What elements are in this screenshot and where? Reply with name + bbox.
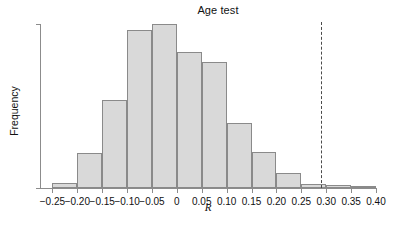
x-tick-mark (376, 188, 377, 193)
histogram-bar (301, 184, 326, 188)
x-tick-mark (227, 188, 228, 193)
histogram-bar (177, 52, 202, 188)
y-tick-mark (36, 24, 41, 25)
histogram-bar (152, 24, 177, 188)
x-tick-mark (252, 188, 253, 193)
x-tick-mark (177, 188, 178, 193)
x-tick-mark (202, 188, 203, 193)
chart-title: Age test (12, 4, 412, 16)
y-axis-label: Frequency (8, 66, 20, 156)
plot-area: −0.25−0.20−0.15−0.10−0.0500.050.100.150.… (40, 24, 376, 188)
histogram-bar (326, 185, 351, 188)
x-tick-mark (77, 188, 78, 193)
histogram-bar (252, 152, 277, 188)
histogram-bar (77, 153, 102, 188)
histogram-bar (127, 30, 152, 188)
histogram-figure: Age test Frequency −0.25−0.20−0.15−0.10−… (0, 0, 412, 227)
x-tick-mark (351, 188, 352, 193)
x-tick-mark (52, 188, 53, 193)
threshold-line-icon (321, 22, 322, 188)
x-tick-mark (152, 188, 153, 193)
x-tick-mark (102, 188, 103, 193)
x-tick-mark (127, 188, 128, 193)
histogram-bar (102, 100, 127, 188)
histogram-bar (351, 186, 376, 188)
y-tick-mark (36, 188, 41, 189)
histogram-bar (52, 183, 77, 188)
x-axis-label: R (40, 201, 376, 213)
x-tick-mark (326, 188, 327, 193)
histogram-bar (276, 173, 301, 188)
x-tick-mark (276, 188, 277, 193)
histogram-bar (227, 123, 252, 188)
x-tick-mark (301, 188, 302, 193)
histogram-bar (202, 62, 227, 188)
y-axis-line (40, 24, 41, 188)
